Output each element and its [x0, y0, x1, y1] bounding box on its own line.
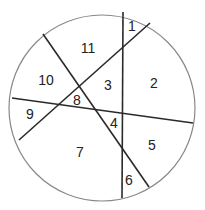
- region-label-3: 3: [104, 77, 112, 93]
- region-label-2: 2: [150, 75, 158, 91]
- region-label-8: 8: [73, 92, 81, 108]
- region-label-6: 6: [125, 172, 133, 188]
- region-label-7: 7: [76, 144, 84, 160]
- line-vertical: [122, 12, 123, 198]
- outer-circle: [9, 15, 195, 201]
- region-label-1: 1: [128, 18, 136, 34]
- region-label-5: 5: [148, 137, 156, 153]
- region-label-11: 11: [81, 40, 96, 56]
- region-label-9: 9: [26, 106, 34, 122]
- line-diag-nw-se: [43, 34, 149, 187]
- region-label-4: 4: [110, 115, 118, 131]
- circle-diagram: 1234567891011: [0, 0, 205, 210]
- region-label-10: 10: [38, 72, 54, 88]
